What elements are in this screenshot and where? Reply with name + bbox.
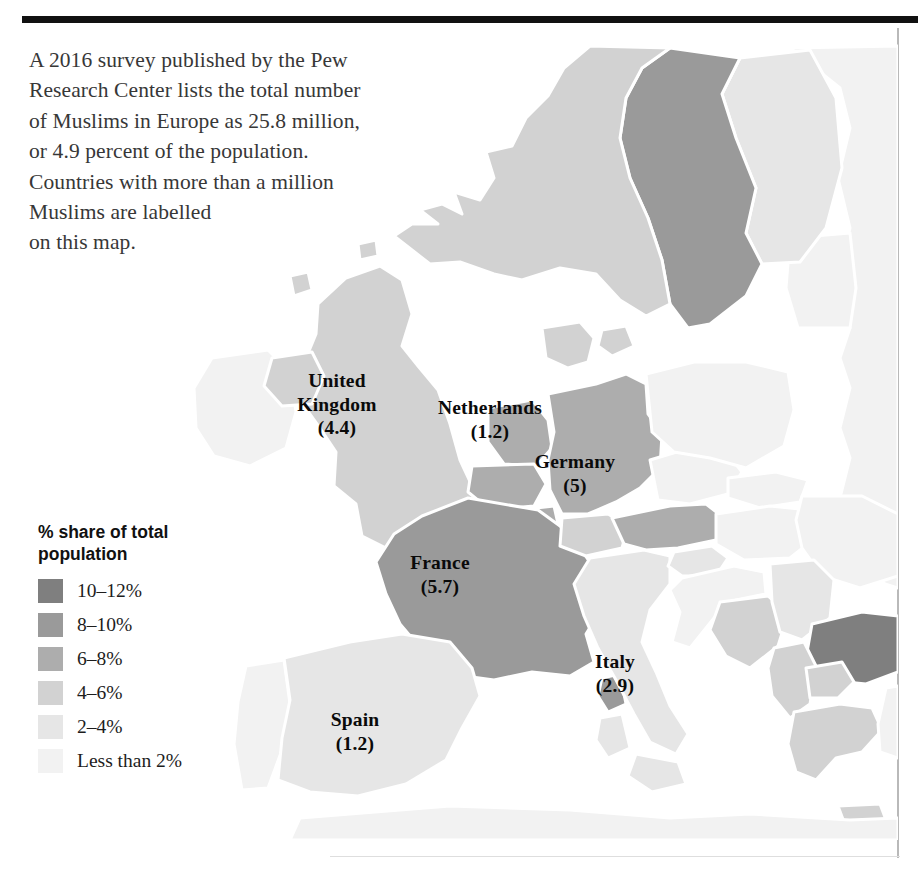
infographic-page: .c { stroke:#ffffff; stroke-width:3; str… — [0, 0, 918, 872]
region-north-africa — [290, 806, 898, 840]
legend-label-2-4: 2–4% — [77, 716, 123, 738]
legend-swatch-4-6 — [38, 681, 63, 705]
legend-item-4-6: 4–6% — [38, 676, 213, 710]
intro-paragraph: A 2016 survey published by the Pew Resea… — [29, 45, 449, 258]
legend-swatch-2-4 — [38, 715, 63, 739]
legend-label-8-10: 8–10% — [77, 614, 132, 636]
map-label-germany: Germany (5) — [500, 450, 650, 497]
legend-label-6-8: 6–8% — [77, 648, 123, 670]
country-turkey — [878, 686, 898, 758]
country-greece — [788, 704, 882, 780]
legend-label-4-6: 4–6% — [77, 682, 123, 704]
map-label-spain: Spain (1.2) — [295, 708, 415, 755]
country-denmark — [542, 322, 594, 368]
legend-item-2-4: 2–4% — [38, 710, 213, 744]
legend-label-less-than-2: Less than 2% — [77, 750, 182, 772]
map-label-united-kingdom: United Kingdom (4.4) — [272, 369, 402, 440]
map-label-italy: Italy (2.9) — [555, 650, 675, 697]
region-hebrides — [290, 272, 312, 296]
legend-item-less-than-2: Less than 2% — [38, 744, 213, 778]
legend-swatch-less-than-2 — [38, 749, 63, 773]
legend-item-8-10: 8–10% — [38, 608, 213, 642]
country-slovakia — [728, 472, 808, 508]
country-denmark-islands — [598, 326, 634, 356]
legend-swatch-6-8 — [38, 647, 63, 671]
map-label-netherlands: Netherlands (1.2) — [400, 396, 580, 443]
legend-swatch-10-12 — [38, 579, 63, 603]
bottom-divider-rule — [330, 856, 900, 857]
map-legend: % share of total population 10–12% 8–10%… — [38, 521, 213, 778]
country-sicily — [628, 754, 686, 792]
country-austria — [612, 504, 724, 550]
country-sardinia — [596, 714, 630, 758]
top-divider-rule — [22, 16, 918, 23]
country-north-macedonia — [806, 662, 854, 698]
legend-title: % share of total population — [38, 521, 213, 565]
map-label-france: France (5.7) — [370, 551, 510, 598]
country-poland — [646, 362, 794, 468]
legend-item-10-12: 10–12% — [38, 574, 213, 608]
legend-swatch-8-10 — [38, 613, 63, 637]
legend-label-10-12: 10–12% — [77, 580, 142, 602]
legend-item-6-8: 6–8% — [38, 642, 213, 676]
